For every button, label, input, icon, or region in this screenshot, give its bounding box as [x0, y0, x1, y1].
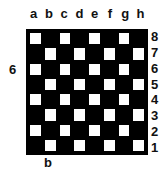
square-c1 — [58, 138, 73, 153]
square-e3 — [87, 107, 102, 122]
square-f3 — [102, 107, 117, 122]
square-a6 — [28, 62, 43, 77]
file-label-a: a — [26, 5, 41, 23]
square-d3 — [72, 107, 87, 122]
square-e8 — [87, 31, 102, 46]
square-g5 — [117, 77, 132, 92]
square-b5 — [43, 77, 58, 92]
square-a3 — [28, 107, 43, 122]
square-c8 — [58, 31, 73, 46]
file-label-f: f — [102, 5, 117, 23]
square-g2 — [117, 123, 132, 138]
square-g6 — [117, 62, 132, 77]
square-c3 — [58, 107, 73, 122]
rank-label-4: 4 — [151, 92, 165, 108]
square-a5 — [28, 77, 43, 92]
rank-label-6: 6 — [151, 61, 165, 77]
file-annotation-label: b — [44, 155, 52, 170]
square-f2 — [102, 123, 117, 138]
square-d8 — [72, 31, 87, 46]
square-d6 — [72, 62, 87, 77]
square-b4 — [43, 92, 58, 107]
square-a4 — [28, 92, 43, 107]
square-f8 — [102, 31, 117, 46]
rank-label-5: 5 — [151, 76, 165, 92]
square-h6 — [131, 62, 146, 77]
rank-labels: 8 7 6 5 4 3 2 1 — [151, 29, 165, 155]
square-h5 — [131, 77, 146, 92]
file-label-g: g — [118, 5, 133, 23]
rank-label-7: 7 — [151, 45, 165, 61]
square-e1 — [87, 138, 102, 153]
square-d2 — [72, 123, 87, 138]
square-d5 — [72, 77, 87, 92]
square-g4 — [117, 92, 132, 107]
square-a7 — [28, 46, 43, 61]
rank-label-3: 3 — [151, 108, 165, 124]
square-f6 — [102, 62, 117, 77]
square-g3 — [117, 107, 132, 122]
square-e7 — [87, 46, 102, 61]
square-h4 — [131, 92, 146, 107]
square-e5 — [87, 77, 102, 92]
square-b7 — [43, 46, 58, 61]
square-f5 — [102, 77, 117, 92]
square-h8 — [131, 31, 146, 46]
square-d4 — [72, 92, 87, 107]
rank-label-2: 2 — [151, 124, 165, 140]
square-h3 — [131, 107, 146, 122]
square-b6 — [43, 62, 58, 77]
square-c2 — [58, 123, 73, 138]
square-e6 — [87, 62, 102, 77]
square-c7 — [58, 46, 73, 61]
square-a1 — [28, 138, 43, 153]
square-c5 — [58, 77, 73, 92]
square-g8 — [117, 31, 132, 46]
square-g7 — [117, 46, 132, 61]
file-label-e: e — [87, 5, 102, 23]
square-h7 — [131, 46, 146, 61]
file-labels: a b c d e f g h — [26, 5, 148, 23]
square-d7 — [72, 46, 87, 61]
square-b2 — [43, 123, 58, 138]
square-f7 — [102, 46, 117, 61]
square-a2 — [28, 123, 43, 138]
square-f4 — [102, 92, 117, 107]
file-label-b: b — [41, 5, 56, 23]
chessboard — [26, 29, 148, 155]
square-b8 — [43, 31, 58, 46]
rank-annotation-label: 6 — [9, 62, 16, 77]
square-c4 — [58, 92, 73, 107]
square-h2 — [131, 123, 146, 138]
square-a8 — [28, 31, 43, 46]
rank-label-8: 8 — [151, 29, 165, 45]
square-b1 — [43, 138, 58, 153]
file-label-h: h — [133, 5, 148, 23]
file-label-c: c — [57, 5, 72, 23]
file-label-d: d — [72, 5, 87, 23]
rank-label-1: 1 — [151, 139, 165, 155]
square-g1 — [117, 138, 132, 153]
square-f1 — [102, 138, 117, 153]
square-e2 — [87, 123, 102, 138]
square-d1 — [72, 138, 87, 153]
square-c6 — [58, 62, 73, 77]
square-h1 — [131, 138, 146, 153]
square-e4 — [87, 92, 102, 107]
square-b3 — [43, 107, 58, 122]
